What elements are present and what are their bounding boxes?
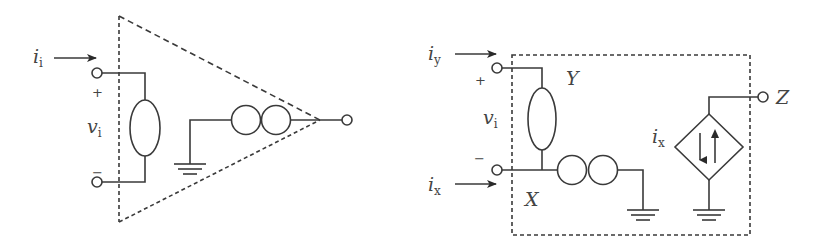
ix-current-label: ix [428, 173, 441, 198]
norator-icon [232, 106, 291, 135]
minus-sign: − [92, 165, 103, 180]
input-voltage-label: vi [87, 115, 102, 140]
minus-sign: − [474, 151, 485, 166]
nullator-icon [528, 88, 556, 150]
left-diagram: ii + − vi [33, 16, 352, 222]
controlled-source-label: ix [652, 125, 665, 150]
ground-icon [627, 210, 659, 220]
ground-icon [174, 164, 206, 174]
output-terminal[interactable] [342, 115, 352, 125]
plus-sign: + [92, 85, 103, 100]
wire [102, 156, 145, 182]
iy-current-label: iy [428, 42, 441, 67]
noninverting-input-terminal[interactable] [92, 68, 102, 78]
node-z-label: Z [775, 86, 790, 108]
input-current-label: ii [33, 45, 43, 70]
y-terminal[interactable] [492, 63, 502, 73]
right-diagram: iy ix + − vi Y X Z [428, 42, 790, 235]
wire [618, 170, 644, 210]
x-terminal[interactable] [492, 165, 502, 175]
wire [102, 73, 145, 100]
wire [502, 68, 542, 88]
dependent-current-source-icon [675, 114, 743, 180]
plus-sign: + [475, 73, 486, 88]
wire [190, 120, 232, 164]
circuit-diagrams: ii + − vi [0, 0, 824, 247]
input-voltage-label: vi [483, 106, 498, 131]
norator-icon [558, 156, 618, 185]
nullator-icon [130, 100, 160, 156]
node-y-label: Y [566, 67, 581, 89]
node-x-label: X [523, 188, 540, 210]
ground-icon [693, 210, 725, 220]
z-terminal[interactable] [758, 92, 768, 102]
